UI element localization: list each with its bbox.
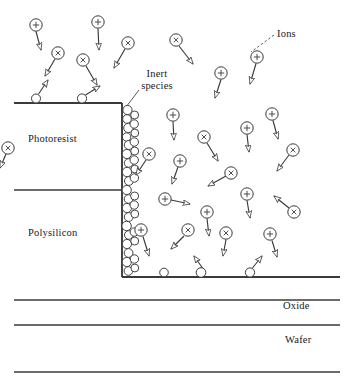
- ions-label: Ions: [277, 28, 296, 39]
- inert-particle: [77, 94, 86, 103]
- particle-arrow: [253, 256, 263, 268]
- ion-positive: [241, 122, 253, 152]
- inert-particle: [130, 174, 138, 182]
- particle-arrow: [39, 80, 49, 94]
- inert-species-surface-group: [32, 94, 255, 277]
- inert-species-label: Inert species: [134, 68, 180, 92]
- ion-positive: [92, 16, 104, 50]
- inert-particle: [196, 268, 206, 278]
- inert-particle: [131, 147, 139, 155]
- ion-neutral: [77, 54, 97, 85]
- inert-particle: [122, 185, 131, 194]
- inert-particle: [131, 210, 139, 218]
- polysilicon-label: Polysilicon: [28, 227, 77, 238]
- inert-particle: [130, 120, 138, 128]
- inert-particle: [130, 255, 138, 263]
- ion-positive: [215, 67, 227, 98]
- inert-particle: [122, 239, 131, 248]
- ion-neutral: [277, 144, 299, 171]
- ion-neutral: [274, 196, 300, 218]
- ion-positive: [201, 206, 213, 236]
- photoresist-label: Photoresist: [28, 133, 77, 144]
- inert-particle: [131, 237, 139, 245]
- inert-particle: [32, 94, 41, 103]
- ion-neutral: [45, 47, 64, 76]
- etch-schematic-figure: Photoresist Polysilicon Oxide Wafer Ions…: [0, 0, 352, 378]
- oxide-label: Oxide: [283, 300, 310, 311]
- inert-particle: [122, 133, 130, 141]
- ion-positive: [266, 108, 278, 139]
- ion-neutral: [0, 142, 14, 168]
- inert-particle: [131, 111, 139, 119]
- inert-particle: [130, 201, 138, 209]
- ion-positive: [30, 19, 42, 50]
- ion-positive: [250, 51, 263, 84]
- wafer-label: Wafer: [285, 334, 311, 345]
- inert-particle: [122, 167, 131, 176]
- ion-neutral: [114, 37, 134, 68]
- schematic-canvas: [0, 0, 352, 378]
- inert-particle: [160, 268, 169, 277]
- inert-species-label-line2: species: [141, 80, 173, 91]
- inert-particle: [122, 221, 131, 230]
- ions-leader-line: [251, 35, 274, 52]
- ion-positive: [167, 109, 179, 140]
- particle-arrow: [194, 256, 203, 268]
- ion-neutral: [208, 167, 237, 186]
- ion-neutral: [170, 34, 193, 64]
- inert-species-label-line1: Inert: [147, 68, 168, 79]
- inert-particle: [131, 264, 139, 272]
- inert-particle: [130, 138, 138, 146]
- inert-particle: [131, 129, 139, 137]
- inert-species-sidewall-group: [122, 105, 139, 275]
- ion-positive: [159, 193, 190, 205]
- inert-particle: [122, 149, 131, 158]
- inert-particle: [130, 156, 138, 164]
- ion-positive: [172, 155, 186, 184]
- ion-positive: [241, 188, 253, 218]
- inert-species-leader-line: [126, 90, 139, 107]
- inert-particle: [245, 268, 254, 277]
- ion-neutral: [198, 131, 218, 161]
- particle-arrow: [86, 86, 101, 95]
- ion-neutral: [171, 224, 194, 249]
- ion-positive: [264, 228, 277, 257]
- inert-particle: [131, 192, 139, 200]
- ion-neutral: [220, 227, 232, 256]
